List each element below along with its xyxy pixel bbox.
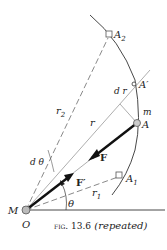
label-M: M: [7, 205, 19, 216]
point-A-prime: [132, 82, 136, 86]
label-theta: θ: [68, 198, 74, 209]
caption-figure-number: fig. 13.6: [54, 221, 91, 231]
label-A2: A2: [113, 29, 126, 43]
figure-caption: fig. 13.6 (repeated): [54, 220, 147, 231]
force-F-prime-vector: [26, 176, 70, 210]
force-F-arrowhead: [88, 149, 100, 161]
dtheta-arc: [48, 150, 54, 172]
label-F-prime: F′: [76, 177, 86, 188]
point-A1: [116, 172, 122, 178]
label-A-prime: A′: [138, 79, 149, 90]
label-O: O: [22, 219, 30, 230]
caption-note: (repeated): [94, 220, 147, 231]
point-O: [22, 206, 30, 214]
label-F: F: [100, 152, 107, 163]
point-A2: [106, 31, 112, 37]
label-dtheta: d θ: [30, 157, 45, 167]
label-dr: d r: [114, 86, 128, 96]
label-A1: A1: [125, 173, 138, 187]
orbit-diagram: A2 A′ d r m A r2 r F d θ F′ A1 r1 θ M O: [0, 0, 167, 250]
point-A: [134, 120, 141, 127]
label-r2: r2: [56, 105, 66, 119]
label-m: m: [143, 107, 152, 117]
radius-line-A-prime: [26, 70, 150, 210]
radius-r2: [26, 38, 108, 210]
label-A: A: [141, 119, 149, 130]
label-r: r: [90, 117, 96, 128]
orbit-path: [90, 15, 139, 195]
label-r1: r1: [92, 187, 101, 201]
